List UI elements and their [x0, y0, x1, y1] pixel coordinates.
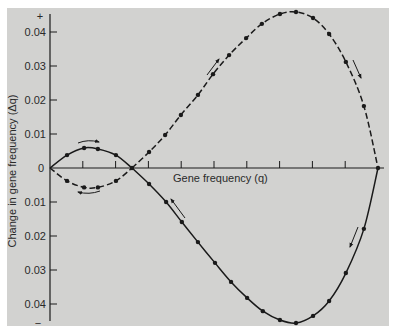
y-tick-label: 0.03: [25, 60, 46, 72]
data-point: [260, 22, 264, 26]
arrow-down-left-icon: [350, 227, 358, 247]
series-upper-solid-lobe: [50, 147, 132, 168]
data-point: [213, 261, 217, 265]
data-point: [65, 153, 69, 157]
data-point: [278, 12, 282, 16]
data-point: [147, 150, 151, 154]
data-point: [294, 10, 298, 14]
y-tick-label: 0.02: [25, 230, 46, 242]
data-point: [278, 318, 282, 322]
data-point: [196, 93, 200, 97]
data-point: [227, 53, 231, 57]
arrow-right-icon: [78, 141, 99, 143]
y-sign-minus: −: [35, 317, 41, 329]
data-point: [180, 220, 184, 224]
y-axis-title: Change in gene frequency (Δq): [6, 95, 18, 248]
series-upper-dashed-curve: [132, 12, 378, 168]
y-tick-label: 0.03: [25, 264, 46, 276]
data-point: [163, 133, 167, 137]
data-point: [229, 280, 233, 284]
arrow-down-right-icon: [353, 60, 361, 78]
data-point: [114, 179, 118, 183]
y-tick-label: 0.04: [25, 26, 46, 38]
data-point: [82, 146, 86, 150]
data-point: [114, 153, 118, 157]
data-point: [327, 32, 331, 36]
data-point: [344, 60, 348, 64]
y-tick-label: 0.02: [25, 94, 46, 106]
y-tick-label: 0.01: [25, 128, 46, 140]
equilibrium-point: [130, 166, 134, 170]
data-point: [344, 271, 348, 275]
data-point: [327, 299, 331, 303]
chart-plot: 0.040.030.020.0100.010.020.030.04+−Gene …: [0, 0, 393, 330]
series-lower-dashed-lobe: [50, 168, 132, 188]
series-lower-solid-curve: [132, 168, 378, 323]
data-point: [82, 185, 86, 189]
data-point: [179, 113, 183, 117]
data-point: [147, 182, 151, 186]
data-point: [362, 227, 366, 231]
arrow-left-icon: [78, 191, 100, 193]
data-point: [211, 72, 215, 76]
y-tick-label: 0.01: [25, 196, 46, 208]
y-tick-label: 0: [38, 162, 44, 174]
data-point: [261, 309, 265, 313]
data-point: [96, 147, 100, 151]
data-point: [294, 321, 298, 325]
equilibrium-point: [376, 166, 380, 170]
y-tick-label: 0.04: [25, 298, 46, 310]
data-point: [362, 104, 366, 108]
data-point: [245, 296, 249, 300]
data-point: [96, 185, 100, 189]
data-point: [311, 314, 315, 318]
data-point: [244, 36, 248, 40]
data-point: [196, 240, 200, 244]
y-sign-plus: +: [37, 10, 43, 22]
data-point: [164, 200, 168, 204]
data-point: [65, 179, 69, 183]
x-axis-title: Gene frequency (q): [173, 172, 268, 184]
arrow-up-left-icon: [171, 199, 185, 218]
data-point: [311, 16, 315, 20]
